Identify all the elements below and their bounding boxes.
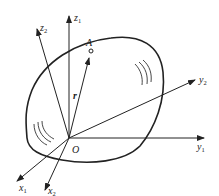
z1-label: z1 (73, 12, 81, 24)
rigid-body-frames-diagram: A r O z1 z2 y2 y1 x1 x2 (0, 0, 219, 196)
y2-axis (69, 80, 195, 138)
point-a-marker (89, 49, 93, 53)
y1-label: y1 (196, 141, 205, 153)
rotation-arcs-upper (135, 60, 151, 85)
position-vector-r (69, 58, 89, 138)
origin-o-label: O (72, 144, 79, 155)
z2-label: z2 (39, 22, 47, 34)
y2-label: y2 (198, 74, 207, 86)
x2-axis (45, 138, 69, 190)
x2-label: x2 (47, 185, 56, 196)
vector-r-label: r (73, 90, 77, 101)
rotation-arcs-lower (34, 121, 54, 145)
rigid-body-outline (26, 37, 163, 162)
x1-label: x1 (18, 182, 27, 194)
point-a-label: A (85, 37, 93, 48)
